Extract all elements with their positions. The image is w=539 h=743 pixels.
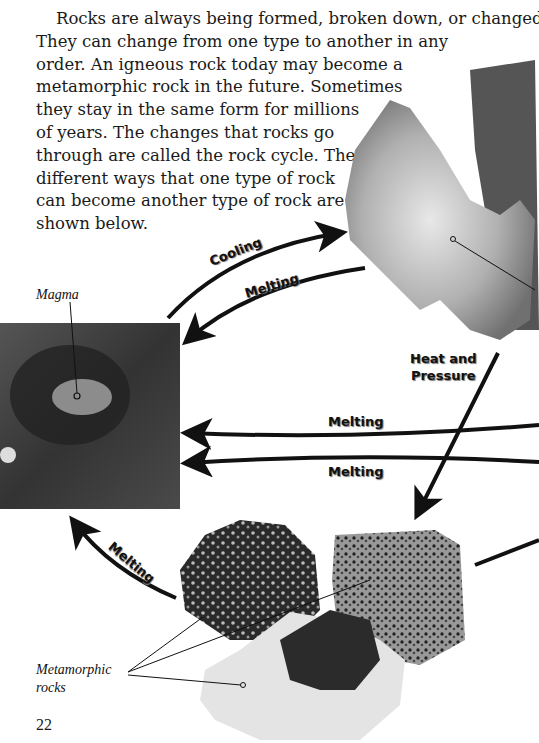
label-heat-pressure: Heat and Pressure xyxy=(410,350,477,384)
caption-line: rocks xyxy=(36,679,111,697)
caption-metamorphic-rocks: Metamorphic rocks xyxy=(36,661,111,697)
label-pressure: Pressure xyxy=(410,367,477,384)
label-heat: Heat and xyxy=(410,350,477,367)
caption-magma: Magma xyxy=(36,287,79,303)
label-melting-mid1: Melting xyxy=(328,414,383,429)
label-melting-mid2: Melting xyxy=(328,464,383,479)
metamorphic-rocks-image xyxy=(128,520,465,740)
magma-photo xyxy=(0,302,180,509)
arrow-to-right xyxy=(475,540,539,565)
caption-line: Metamorphic xyxy=(36,661,111,679)
page-number: 22 xyxy=(36,716,52,734)
melting-arrow-mid2 xyxy=(188,457,539,463)
sedimentary-rock-image xyxy=(345,60,539,340)
